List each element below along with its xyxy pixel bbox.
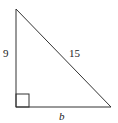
triangle: [16, 9, 111, 107]
right-triangle-diagram: 9 15 b: [0, 0, 118, 123]
left-leg-label: 9: [3, 47, 9, 59]
right-angle-marker: [16, 94, 29, 107]
hypotenuse-label: 15: [69, 47, 81, 59]
base-label: b: [59, 110, 65, 122]
